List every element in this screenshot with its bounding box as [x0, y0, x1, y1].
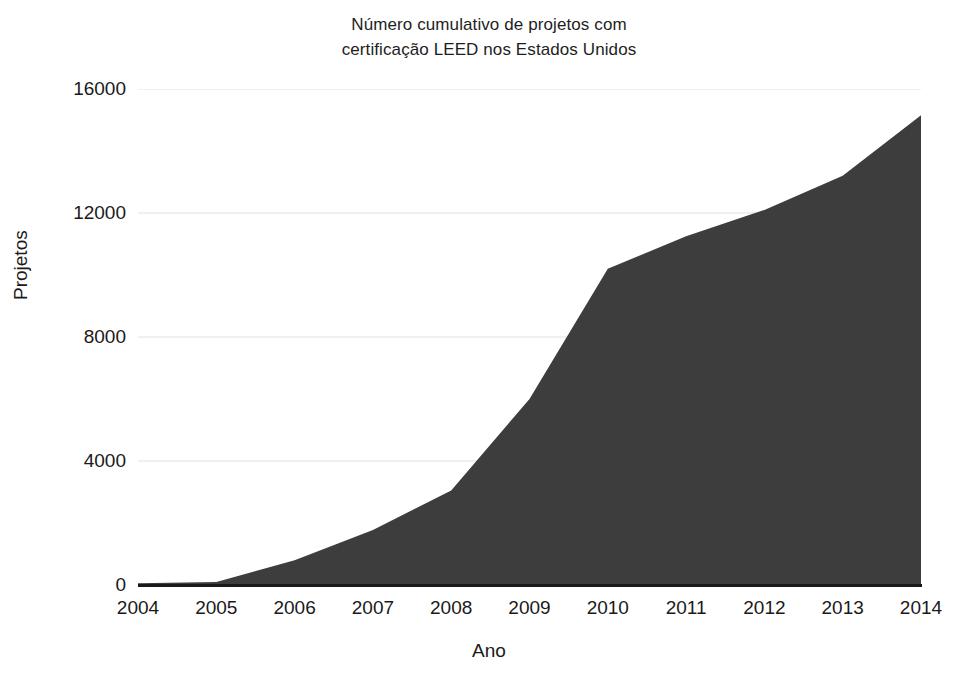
x-tick-label: 2013 [822, 597, 864, 619]
y-tick-label: 4000 [0, 450, 126, 472]
x-tick-label: 2005 [195, 597, 237, 619]
x-axis-line [138, 584, 922, 587]
y-tick-label: 16000 [0, 78, 126, 100]
x-tick-label: 2012 [743, 597, 785, 619]
x-tick-label: 2010 [587, 597, 629, 619]
chart-title: Número cumulativo de projetos com certif… [0, 12, 978, 62]
x-tick-label: 2014 [900, 597, 942, 619]
y-tick-label: 0 [0, 574, 126, 596]
x-axis-tick-labels: 2004200520062007200820092010201120122013… [0, 597, 978, 627]
x-tick-label: 2008 [430, 597, 472, 619]
chart-figure: Número cumulativo de projetos com certif… [0, 0, 978, 695]
y-axis-title: Projetos [10, 230, 32, 300]
y-tick-label: 8000 [0, 326, 126, 348]
area-series-path [138, 115, 921, 585]
x-tick-label: 2009 [508, 597, 550, 619]
plot-area [138, 89, 921, 585]
chart-title-line-2: certificação LEED nos Estados Unidos [0, 37, 978, 62]
area-series-svg [138, 89, 921, 585]
chart-title-line-1: Número cumulativo de projetos com [0, 12, 978, 37]
y-tick-label: 12000 [0, 202, 126, 224]
x-tick-label: 2004 [117, 597, 159, 619]
x-tick-label: 2007 [352, 597, 394, 619]
x-tick-label: 2011 [666, 597, 707, 619]
x-tick-label: 2006 [273, 597, 315, 619]
x-axis-title: Ano [0, 640, 978, 662]
